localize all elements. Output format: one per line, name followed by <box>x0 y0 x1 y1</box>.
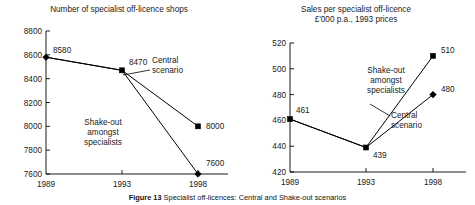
chart-left-canvas: Number of specialist off-licence shops76… <box>0 0 238 190</box>
chart-right-canvas: Sales per specialist off-licence£'000 p.… <box>238 0 475 190</box>
x-tick-label: 1998 <box>424 178 443 187</box>
chart-sales-per-licence: Sales per specialist off-licence£'000 p.… <box>238 0 475 205</box>
y-tick-label: 420 <box>272 168 286 177</box>
data-point-marker <box>120 68 125 73</box>
annotation-shake-out: amongst <box>370 76 402 85</box>
x-tick-label: 1993 <box>113 180 132 189</box>
y-tick-label: 460 <box>272 116 286 125</box>
annotation-shake-out: specialists <box>84 138 122 147</box>
chart-axes <box>46 31 228 174</box>
chart-title: Number of specialist off-licence shops <box>50 5 188 14</box>
figure-caption: Figure 13 Specialist off-licences: Centr… <box>0 191 475 205</box>
x-tick-label: 1998 <box>189 180 208 189</box>
chart-number-of-shops: Number of specialist off-licence shops76… <box>0 0 238 205</box>
y-tick-label: 8800 <box>24 27 43 36</box>
y-tick-label: 7600 <box>24 170 43 179</box>
data-point-marker <box>364 145 369 150</box>
x-tick-label: 1993 <box>357 178 376 187</box>
y-tick-label: 8000 <box>24 122 43 131</box>
data-point-marker <box>288 117 293 122</box>
y-tick-label: 7800 <box>24 146 43 155</box>
annotation-shake-out: Shake-out <box>367 66 405 75</box>
data-point-label: 480 <box>441 85 455 94</box>
data-point-label: 8000 <box>206 122 225 131</box>
y-tick-label: 440 <box>272 142 286 151</box>
y-tick-label: 8600 <box>24 51 43 60</box>
caption-label: Figure 13 <box>129 193 162 202</box>
y-tick-label: 8200 <box>24 99 43 108</box>
x-tick-label: 1989 <box>37 180 56 189</box>
y-tick-label: 480 <box>272 91 286 100</box>
data-point-label: 510 <box>441 46 455 55</box>
y-tick-label: 520 <box>272 39 286 48</box>
data-point-marker <box>431 53 436 58</box>
data-point-label: 8470 <box>129 58 148 67</box>
series-line-0 <box>290 56 433 148</box>
annotation-central-scenario: Central <box>391 111 418 120</box>
annotation-central-scenario: Central <box>152 56 179 65</box>
data-point-label: 461 <box>296 106 310 115</box>
leader-central-scenario <box>123 70 150 75</box>
annotation-central-scenario: scenario <box>152 66 183 75</box>
annotation-shake-out: Shake-out <box>84 118 122 127</box>
x-tick-label: 1989 <box>281 178 300 187</box>
caption-text: Specialist off-licences: Central and Sha… <box>164 193 347 202</box>
y-tick-label: 500 <box>272 65 286 74</box>
y-tick-label: 8400 <box>24 75 43 84</box>
chart-subtitle: £'000 p.a., 1993 prices <box>315 15 398 24</box>
figure-container: Number of specialist off-licence shops76… <box>0 0 475 205</box>
annotation-central-scenario: scenario <box>391 121 422 130</box>
chart-title: Sales per specialist off-licence <box>301 5 411 14</box>
data-point-label: 8580 <box>53 46 72 55</box>
leader-central-scenario <box>370 104 390 116</box>
data-point-label: 439 <box>373 151 387 160</box>
annotation-shake-out: specialists <box>367 86 405 95</box>
data-point-label: 7600 <box>206 159 225 168</box>
data-point-marker <box>196 124 201 129</box>
annotation-shake-out: amongst <box>87 128 119 137</box>
